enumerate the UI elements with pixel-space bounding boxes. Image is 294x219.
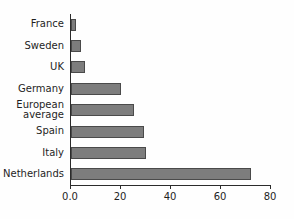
plot-area: 0.020406080: [70, 14, 270, 185]
category-label-7: Netherlands: [0, 169, 64, 180]
x-tick: [70, 185, 71, 189]
bar: [71, 168, 251, 180]
category-axis-labels: France Sweden UK Germany Europeanaverage…: [0, 14, 66, 185]
x-tick-label: 20: [114, 191, 127, 202]
category-label-2: UK: [0, 62, 64, 73]
bar: [71, 126, 144, 138]
category-label-4: Europeanaverage: [0, 100, 64, 121]
x-tick: [270, 185, 271, 189]
category-label-0: France: [0, 19, 64, 30]
x-tick: [220, 185, 221, 189]
category-label-5: Spain: [0, 126, 64, 137]
bar: [71, 104, 134, 116]
x-tick-label: 0.0: [62, 191, 78, 202]
category-label-6: Italy: [0, 148, 64, 159]
bar-chart: France Sweden UK Germany Europeanaverage…: [0, 0, 294, 219]
bar: [71, 83, 121, 95]
x-tick-label: 60: [214, 191, 227, 202]
bar: [71, 19, 76, 31]
x-tick-label: 80: [264, 191, 277, 202]
bar: [71, 40, 81, 52]
x-tick: [120, 185, 121, 189]
bar: [71, 61, 85, 73]
bar: [71, 147, 146, 159]
category-label-3: Germany: [0, 84, 64, 95]
x-tick: [170, 185, 171, 189]
x-tick-label: 40: [164, 191, 177, 202]
category-label-1: Sweden: [0, 41, 64, 52]
